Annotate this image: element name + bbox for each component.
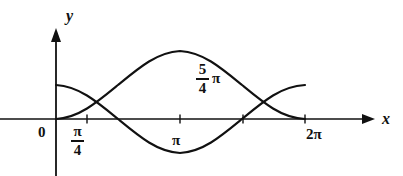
fraction-numerator: π (71, 124, 83, 140)
origin-label: 0 (38, 125, 46, 140)
annotation-5pi-over-4: 5 4 π (196, 62, 220, 96)
fraction-5-over-4: 5 4 (196, 62, 209, 96)
fraction-pi-over-4: π 4 (71, 124, 84, 158)
y-axis (51, 28, 61, 176)
fraction-denominator: 4 (72, 142, 84, 158)
fraction-denominator: 4 (197, 80, 209, 96)
pi-symbol: π (212, 71, 220, 86)
tick-label-pi-over-4: π 4 (71, 124, 84, 158)
y-axis-label: y (66, 8, 73, 24)
tick-label-pi: π (172, 133, 180, 148)
sine-curve (56, 51, 305, 119)
trig-graph-figure: y x 0 π 4 π 2π 5 4 π (0, 0, 403, 176)
fraction-numerator: 5 (197, 62, 209, 78)
x-axis-label: x (382, 111, 390, 127)
tick-label-2pi: 2π (306, 127, 322, 142)
